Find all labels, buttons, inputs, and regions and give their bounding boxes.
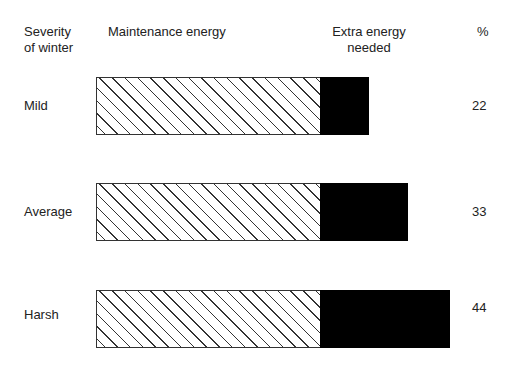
pct-harsh: 44 bbox=[472, 300, 486, 316]
bar-average-extra bbox=[320, 183, 408, 241]
header-percent: % bbox=[477, 24, 489, 40]
pct-average: 33 bbox=[472, 204, 486, 220]
bar-harsh-extra bbox=[320, 290, 450, 348]
bar-mild bbox=[96, 77, 369, 135]
row-label-mild: Mild bbox=[24, 98, 48, 114]
bar-harsh-maintenance bbox=[96, 290, 320, 348]
bar-average bbox=[96, 183, 408, 241]
header-maintenance: Maintenance energy bbox=[108, 24, 226, 40]
row-label-harsh: Harsh bbox=[24, 307, 59, 323]
header-extra-line1: Extra energy bbox=[320, 24, 418, 40]
bar-harsh bbox=[96, 290, 450, 348]
row-label-average: Average bbox=[24, 204, 72, 220]
header-extra: Extra energy needed bbox=[320, 24, 418, 56]
header-severity-line2: of winter bbox=[24, 40, 73, 56]
bar-average-maintenance bbox=[96, 183, 320, 241]
bar-mild-extra bbox=[320, 77, 369, 135]
bar-mild-maintenance bbox=[96, 77, 320, 135]
pct-mild: 22 bbox=[472, 98, 486, 114]
header-extra-line2: needed bbox=[320, 40, 418, 56]
header-severity: Severity of winter bbox=[24, 24, 73, 56]
header-severity-line1: Severity bbox=[24, 24, 73, 40]
